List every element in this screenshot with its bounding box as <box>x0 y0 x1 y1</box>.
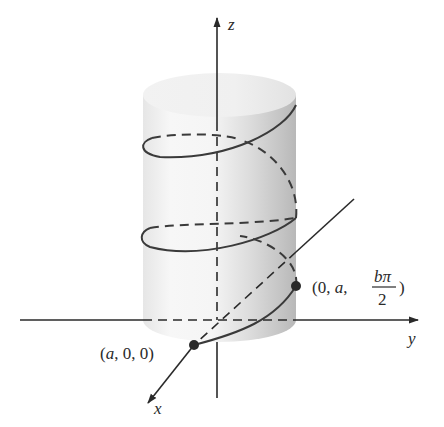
fraction-denominator: 2 <box>378 290 387 309</box>
z-axis-label: z <box>227 15 235 34</box>
x-axis-label: x <box>153 399 162 418</box>
cylinder-body <box>143 95 296 342</box>
point-label-0a-bpi2: (0, a, bπ 2 ) <box>312 267 405 309</box>
x-axis <box>148 345 194 403</box>
svg-text:): ) <box>399 278 405 297</box>
cylinder-top <box>143 73 296 117</box>
svg-text:(0, a,: (0, a, <box>312 278 347 297</box>
point-a00 <box>189 340 199 350</box>
fraction-numerator: bπ <box>374 267 392 286</box>
x-axis-upper <box>296 199 354 252</box>
cylinder <box>143 73 296 342</box>
y-axis-label: y <box>406 329 416 348</box>
point-0a-bpi2 <box>291 281 301 291</box>
point-label-a00: (a, 0, 0) <box>100 344 154 363</box>
helix-diagram: z y x (a, 0, 0) (0, a, bπ 2 ) <box>0 0 444 427</box>
